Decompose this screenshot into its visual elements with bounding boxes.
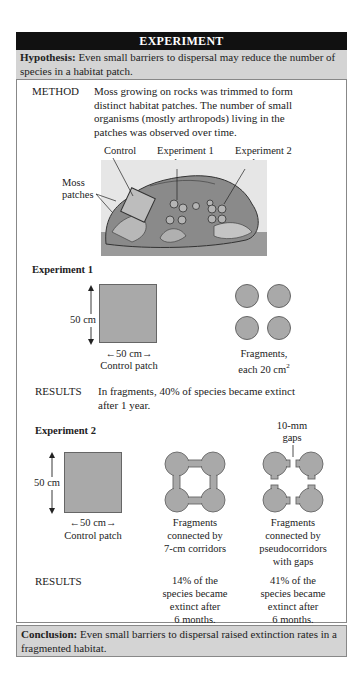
corridors-caption-3: 7-cm corridors [150,543,240,556]
pseudo-result-2: species became [248,588,338,601]
fragment-circle [267,284,291,308]
exp1-results-line-1: In fragments, 40% of species became exti… [98,385,295,399]
fragments-caption-2: each 20 cm2 [225,360,303,376]
pseudo-caption-4: with gaps [248,556,338,569]
experiment1-title: Experiment 1 [32,264,93,275]
fragment-circle [235,284,259,308]
moss-rock-illustration [0,0,362,260]
pseudo-caption-3: pseudocorridors [248,543,338,556]
gap-label-2: gaps [262,432,322,445]
corridors-result-1: 14% of the [150,575,240,588]
fragments-with-pseudocorridors [263,452,323,512]
corridors-caption-2: connected by [150,530,240,543]
pseudo-result-3: extinct after [248,601,338,614]
exp1-width-label: ←50 cm→ [90,348,168,361]
pseudo-caption-2: connected by [248,530,338,543]
exp1-control-caption: Control patch [84,360,174,373]
fragments-with-corridors [165,452,225,512]
corridors-caption-1: Fragments [150,517,240,530]
conclusion-label: Conclusion: [21,628,77,640]
exp2-control-caption: Control patch [48,530,138,543]
gap-label-1: 10-mm [262,420,322,433]
exp1-results-line-2: after 1 year. [98,399,150,413]
exp2-width-label: ←50 cm→ [54,517,132,530]
fragment-circle [267,316,291,340]
exp1-height-label: 50 cm [70,314,96,327]
exp2-height-label: 50 cm [34,477,60,490]
experiment2-title: Experiment 2 [35,425,96,436]
exp2-results-label: RESULTS [35,575,82,589]
pseudo-caption-1: Fragments [248,517,338,530]
fragment-circle [235,316,259,340]
exp1-control-patch [99,284,157,343]
corridors-result-2: species became [150,588,240,601]
corridors-result-3: extinct after [150,601,240,614]
exp2-control-patch [64,452,122,513]
pseudo-result-1: 41% of the [248,575,338,588]
fragments-caption-1: Fragments, [225,348,303,361]
exp1-results-label: RESULTS [35,385,82,399]
conclusion-band: Conclusion: Even small barriers to dispe… [16,625,347,657]
